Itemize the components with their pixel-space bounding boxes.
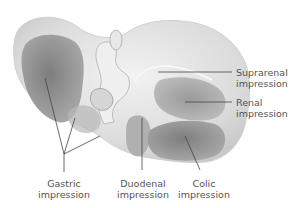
- label-line: impression: [236, 78, 288, 89]
- label-suprarenal-impression: Suprarenal impression: [236, 67, 288, 89]
- gastric-leader-2: [64, 118, 75, 154]
- label-line: impression: [174, 189, 234, 200]
- label-line: impression: [36, 189, 92, 200]
- label-line: Duodenal: [113, 178, 173, 189]
- label-gastric-impression: Gastric impression: [36, 178, 92, 200]
- gastric-leader-3: [64, 136, 100, 154]
- label-renal-impression: Renal impression: [236, 97, 288, 119]
- label-line: Gastric: [36, 178, 92, 189]
- label-line: Colic: [174, 178, 234, 189]
- label-line: Suprarenal: [236, 67, 288, 78]
- colic-impression-region: [148, 121, 226, 161]
- label-colic-impression: Colic impression: [174, 178, 234, 200]
- label-duodenal-impression: Duodenal impression: [113, 178, 173, 200]
- ivc: [110, 30, 122, 50]
- label-line: impression: [113, 189, 173, 200]
- label-line: impression: [236, 108, 288, 119]
- label-line: Renal: [236, 97, 288, 108]
- liver-diagram: Suprarenal impression Renal impression G…: [0, 0, 291, 208]
